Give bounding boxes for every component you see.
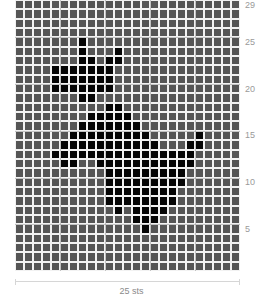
main-stitch-cell bbox=[61, 263, 68, 270]
main-stitch-cell bbox=[70, 122, 77, 129]
main-stitch-cell bbox=[178, 94, 185, 101]
contrast-stitch-cell bbox=[142, 225, 149, 232]
main-stitch-cell bbox=[124, 207, 131, 214]
main-stitch-cell bbox=[97, 197, 104, 204]
main-stitch-cell bbox=[178, 216, 185, 223]
main-stitch-cell bbox=[124, 244, 131, 251]
main-stitch-cell bbox=[223, 253, 230, 260]
main-stitch-cell bbox=[25, 122, 32, 129]
main-stitch-cell bbox=[178, 48, 185, 55]
main-stitch-cell bbox=[52, 48, 59, 55]
main-stitch-cell bbox=[88, 235, 95, 242]
main-stitch-cell bbox=[151, 113, 158, 120]
contrast-stitch-cell bbox=[160, 169, 167, 176]
main-stitch-cell bbox=[223, 216, 230, 223]
main-stitch-cell bbox=[61, 235, 68, 242]
main-stitch-cell bbox=[142, 48, 149, 55]
main-stitch-cell bbox=[52, 141, 59, 148]
main-stitch-cell bbox=[43, 85, 50, 92]
contrast-stitch-cell bbox=[124, 113, 131, 120]
main-stitch-cell bbox=[133, 104, 140, 111]
main-stitch-cell bbox=[52, 235, 59, 242]
main-stitch-cell bbox=[205, 160, 212, 167]
main-stitch-cell bbox=[124, 48, 131, 55]
main-stitch-cell bbox=[187, 57, 194, 64]
main-stitch-cell bbox=[79, 169, 86, 176]
main-stitch-cell bbox=[34, 179, 41, 186]
main-stitch-cell bbox=[34, 169, 41, 176]
main-stitch-cell bbox=[34, 1, 41, 8]
main-stitch-cell bbox=[25, 76, 32, 83]
contrast-stitch-cell bbox=[133, 132, 140, 139]
main-stitch-cell bbox=[196, 66, 203, 73]
main-stitch-cell bbox=[106, 94, 113, 101]
main-stitch-cell bbox=[205, 169, 212, 176]
main-stitch-cell bbox=[151, 94, 158, 101]
contrast-stitch-cell bbox=[61, 151, 68, 158]
main-stitch-cell bbox=[142, 66, 149, 73]
contrast-stitch-cell bbox=[70, 132, 77, 139]
main-stitch-cell bbox=[34, 113, 41, 120]
main-stitch-cell bbox=[43, 57, 50, 64]
main-stitch-cell bbox=[205, 29, 212, 36]
contrast-stitch-cell bbox=[124, 132, 131, 139]
main-stitch-cell bbox=[70, 253, 77, 260]
main-stitch-cell bbox=[61, 207, 68, 214]
main-stitch-cell bbox=[52, 160, 59, 167]
main-stitch-cell bbox=[214, 169, 221, 176]
main-stitch-cell bbox=[16, 76, 23, 83]
contrast-stitch-cell bbox=[97, 122, 104, 129]
main-stitch-cell bbox=[214, 207, 221, 214]
main-stitch-cell bbox=[196, 85, 203, 92]
main-stitch-cell bbox=[115, 94, 122, 101]
main-stitch-cell bbox=[61, 225, 68, 232]
main-stitch-cell bbox=[16, 113, 23, 120]
main-stitch-cell bbox=[151, 244, 158, 251]
main-stitch-cell bbox=[106, 225, 113, 232]
main-stitch-cell bbox=[97, 263, 104, 270]
main-stitch-cell bbox=[124, 235, 131, 242]
main-stitch-cell bbox=[52, 94, 59, 101]
main-stitch-cell bbox=[142, 113, 149, 120]
main-stitch-cell bbox=[88, 160, 95, 167]
main-stitch-cell bbox=[205, 10, 212, 17]
contrast-stitch-cell bbox=[88, 113, 95, 120]
row-label-25: 25 bbox=[245, 38, 255, 47]
main-stitch-cell bbox=[133, 38, 140, 45]
main-stitch-cell bbox=[214, 57, 221, 64]
contrast-stitch-cell bbox=[52, 85, 59, 92]
main-stitch-cell bbox=[115, 29, 122, 36]
main-stitch-cell bbox=[70, 10, 77, 17]
main-stitch-cell bbox=[97, 169, 104, 176]
main-stitch-cell bbox=[34, 207, 41, 214]
main-stitch-cell bbox=[178, 122, 185, 129]
main-stitch-cell bbox=[124, 94, 131, 101]
main-stitch-cell bbox=[205, 253, 212, 260]
contrast-stitch-cell bbox=[160, 151, 167, 158]
main-stitch-cell bbox=[151, 20, 158, 27]
main-stitch-cell bbox=[133, 66, 140, 73]
main-stitch-cell bbox=[151, 29, 158, 36]
main-stitch-cell bbox=[205, 57, 212, 64]
main-stitch-cell bbox=[133, 10, 140, 17]
main-stitch-cell bbox=[187, 76, 194, 83]
contrast-stitch-cell bbox=[151, 169, 158, 176]
main-stitch-cell bbox=[61, 20, 68, 27]
contrast-stitch-cell bbox=[106, 57, 113, 64]
contrast-stitch-cell bbox=[88, 66, 95, 73]
main-stitch-cell bbox=[88, 207, 95, 214]
main-stitch-cell bbox=[79, 29, 86, 36]
main-stitch-cell bbox=[52, 263, 59, 270]
main-stitch-cell bbox=[25, 85, 32, 92]
main-stitch-cell bbox=[25, 104, 32, 111]
contrast-stitch-cell bbox=[142, 216, 149, 223]
main-stitch-cell bbox=[79, 253, 86, 260]
contrast-stitch-cell bbox=[88, 85, 95, 92]
main-stitch-cell bbox=[187, 94, 194, 101]
main-stitch-cell bbox=[151, 48, 158, 55]
main-stitch-cell bbox=[97, 216, 104, 223]
main-stitch-cell bbox=[232, 38, 239, 45]
main-stitch-cell bbox=[16, 38, 23, 45]
main-stitch-cell bbox=[43, 1, 50, 8]
main-stitch-cell bbox=[43, 160, 50, 167]
